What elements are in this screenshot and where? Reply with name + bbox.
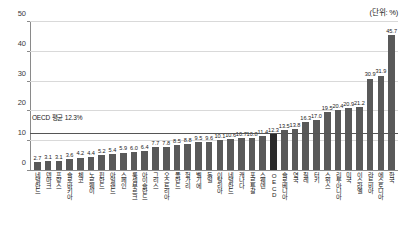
bar-slot: 12.3 [268,22,279,170]
y-axis-tick-mark [27,140,30,141]
bar-value-label: 13.5 [279,124,290,130]
bar-value-label: 45.7 [386,29,397,35]
category-slot: 헝가리 [182,172,193,231]
bar-slot: 19.5 [322,22,333,170]
bar-slot: 5.4 [107,22,118,170]
bar[interactable]: 20.9 [345,108,352,170]
bar[interactable]: 6.0 [131,152,138,170]
category-slot: 독일 [204,172,215,231]
bar-value-label: 5.2 [98,149,106,155]
bar[interactable]: 17.0 [313,120,320,170]
category-slot: 영국 [290,172,301,231]
bar-value-label: 7.7 [152,141,160,147]
bar-value-label: 30.9 [365,72,376,78]
category-slot: 오스트리아 [161,172,172,231]
bar[interactable]: 8.8 [184,144,191,170]
bar-value-label: 17.0 [311,114,322,120]
category-label: 핀란드 [99,172,105,231]
y-axis-tick-label: 50 [18,9,26,18]
category-label: 슬로베니아 [281,172,287,231]
unit-note: (단위: %) [370,6,398,17]
bar-value-label: 5.9 [119,146,127,152]
bar[interactable]: 16.3 [302,122,309,170]
bar[interactable]: 3.1 [56,161,63,170]
bar[interactable]: 8.5 [174,145,181,170]
bar-slot: 7.7 [150,22,161,170]
bar[interactable]: 9.6 [206,142,213,170]
bar-slot: 9.5 [193,22,204,170]
bar[interactable]: 3.6 [66,159,73,170]
bar[interactable]: 5.2 [98,155,105,170]
bar[interactable]: 10.7 [238,138,245,170]
bar[interactable]: 13.8 [292,129,299,170]
x-axis-category-labels: 네덜란드덴마크프랑스슬로바키아체코노르웨이핀란드아일랜드스페인룩셈부르크아이슬란… [31,172,398,231]
bar[interactable]: 7.7 [152,147,159,170]
category-label: 네덜란드 [227,172,233,231]
y-axis-tick-mark [27,110,30,111]
category-label: 그리스 [152,172,158,231]
bar[interactable]: 6.4 [141,151,148,170]
bar[interactable]: 30.9 [367,79,374,170]
bar[interactable]: 10.1 [217,140,224,170]
category-label: 에스토니아 [378,172,384,231]
bar-value-label: 3.1 [44,155,52,161]
category-slot: 스위스 [322,172,333,231]
category-slot: 노르웨이 [86,172,97,231]
bar-slot: 11.4 [257,22,268,170]
category-slot: 네덜란드 [32,172,43,231]
category-slot: 미국 [343,172,354,231]
bar-value-label: 3.6 [66,153,74,159]
bar-slot: 21.2 [354,22,365,170]
bar-series: 2.73.13.13.64.24.45.25.45.96.06.47.77.88… [31,22,398,170]
bar[interactable]: 4.2 [77,158,84,170]
category-label: 헝가리 [185,172,191,231]
bar-chart: (단위: %) 01020304050 OECD 평균 12.3% 2.73.1… [0,0,406,233]
category-label: 룩셈부르크 [131,172,137,231]
bar-value-label: 20.9 [343,102,354,108]
y-axis-tick-label: 20 [18,98,26,107]
bar[interactable]: 13.5 [281,130,288,170]
bar-slot: 13.8 [290,22,301,170]
bar[interactable]: 21.2 [356,107,363,170]
bar[interactable]: 12.3 [270,134,277,170]
category-slot: 덴마크 [43,172,54,231]
bar[interactable]: 11.4 [259,136,266,170]
category-label: 이스라엘 [356,172,362,231]
category-slot: 이탈리아 [214,172,225,231]
x-axis-line [30,170,398,171]
bar[interactable]: 31.9 [378,76,385,170]
bar-slot: 6.4 [139,22,150,170]
bar[interactable]: 2.7 [34,162,41,170]
category-label: 칠레 [303,172,309,231]
bar[interactable]: 7.8 [163,147,170,170]
category-slot: 프랑스 [53,172,64,231]
bar[interactable]: 3.1 [45,161,52,170]
bar[interactable]: 5.4 [109,154,116,170]
category-label: 스위스 [324,172,330,231]
category-label: 네덜란드 [34,172,40,231]
category-label: 리투아니아 [335,172,341,231]
bar[interactable]: 9.5 [195,142,202,170]
category-label: 오스트리아 [163,172,169,231]
y-axis-tick-mark [27,170,30,171]
category-label: 아이슬란드 [142,172,148,231]
bar[interactable]: 20.4 [335,110,342,170]
bar-value-label: 4.4 [87,151,95,157]
plot-area: 01020304050 OECD 평균 12.3% 2.73.13.13.64.… [30,22,398,171]
bar[interactable]: 4.4 [88,157,95,170]
category-label: OECD [270,172,276,231]
bar-value-label: 9.5 [194,136,202,142]
average-line-label: OECD 평균 12.3% [32,112,82,123]
category-label: 벨기에 [195,172,201,231]
bar[interactable]: 10.6 [227,139,234,170]
bar[interactable]: 45.7 [388,35,395,170]
y-axis-tick-label: 0 [22,158,26,167]
bar-slot: 31.9 [376,22,387,170]
category-slot: OECD [268,172,279,231]
bar[interactable]: 10.8 [249,138,256,170]
average-line [30,133,398,134]
bar-slot: 4.4 [86,22,97,170]
bar[interactable]: 5.9 [120,153,127,170]
bar[interactable]: 19.5 [324,112,331,170]
bar-slot: 4.2 [75,22,86,170]
